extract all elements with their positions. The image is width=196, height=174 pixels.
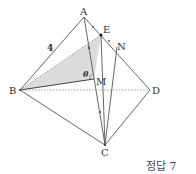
edge-dc <box>105 90 150 145</box>
answer-label: 정답 7 <box>146 157 177 173</box>
equal-mark-am <box>88 47 90 49</box>
edge-bc <box>20 90 105 145</box>
label-a: A <box>79 6 88 17</box>
mark-ae <box>92 26 94 28</box>
mark-en <box>108 40 110 42</box>
label-m: M <box>96 76 106 87</box>
segment-nc <box>105 47 117 145</box>
point-c-dot <box>104 144 106 146</box>
label-e: E <box>103 24 110 35</box>
label-n: N <box>117 41 126 52</box>
point-b-dot <box>19 89 21 91</box>
diagram-svg: A E N B M D C 4 θ <box>0 0 196 174</box>
edge-length-label: 4 <box>47 43 53 53</box>
equal-mark-mc <box>99 111 101 113</box>
label-b: B <box>9 85 16 96</box>
angle-theta-label: θ <box>83 69 89 79</box>
label-d: D <box>152 85 160 96</box>
label-c: C <box>101 147 109 158</box>
tetrahedron-diagram: A E N B M D C 4 θ 정답 7 <box>0 0 196 174</box>
